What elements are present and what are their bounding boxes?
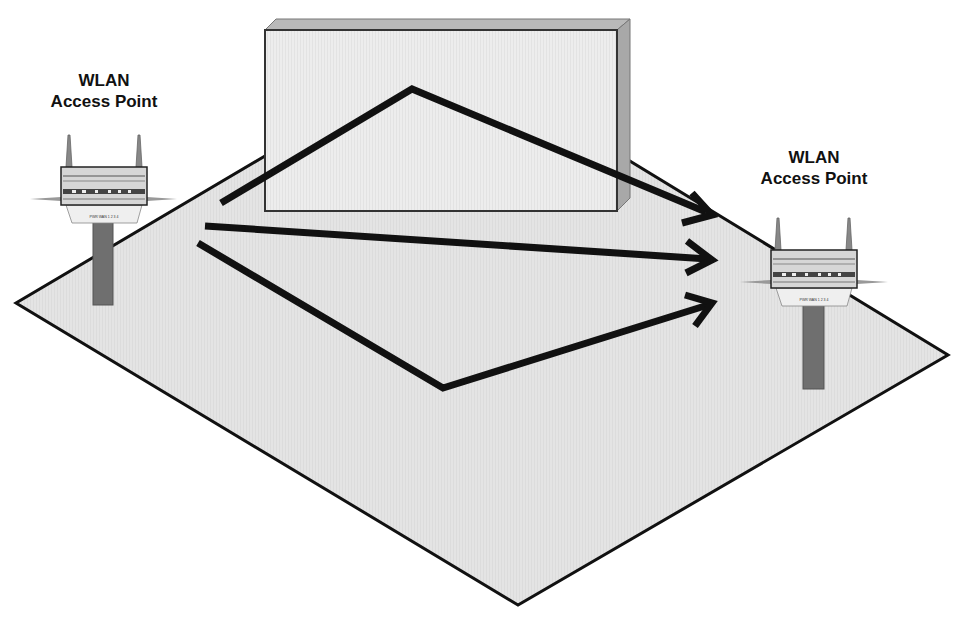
access-point-right-label: WLAN Access Point [734,147,894,189]
mounting-pole [93,222,113,305]
port-labels: PWR WAN 1 2 3 4 [90,215,119,219]
side-wing [147,197,177,201]
antenna-icon [66,135,72,167]
router-base [66,205,142,223]
wall-obstacle [265,19,630,211]
antenna-icon [136,135,142,167]
access-point-left-label: WLAN Access Point [24,70,184,112]
wall-top-face [265,19,630,30]
side-wing [857,280,888,284]
label-line1: WLAN [734,147,894,168]
wall-front-face [265,30,617,211]
antenna-icon [846,218,852,250]
port-labels: PWR WAN 1 2 3 4 [800,298,829,302]
label-line1: WLAN [24,70,184,91]
label-line2: Access Point [734,168,894,189]
antenna-icon [775,218,781,250]
mounting-pole [803,305,824,389]
router-base [776,288,852,306]
label-line2: Access Point [24,91,184,112]
side-wing [30,197,61,201]
